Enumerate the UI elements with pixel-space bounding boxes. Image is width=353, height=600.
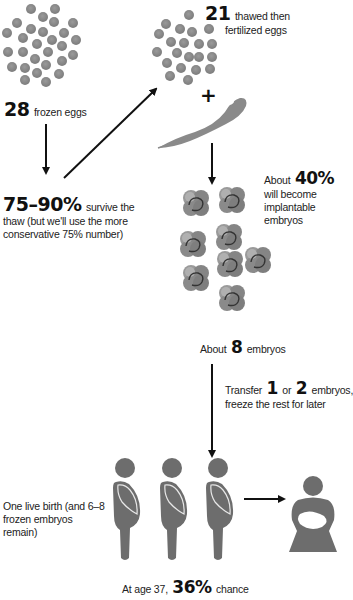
thawed-eggs-count: 21 — [205, 2, 230, 24]
embryo-count: 8 — [231, 337, 242, 357]
implantable-text-2: implantable — [264, 201, 339, 214]
mother-with-baby-icon — [289, 476, 337, 552]
embryo-text: embryos — [247, 343, 286, 355]
transfer-n2: 2 — [296, 378, 307, 398]
transfer-n1: 1 — [267, 378, 278, 398]
thawed-text-1: thawed then — [235, 10, 290, 22]
chance-rate: 36% — [172, 577, 211, 597]
frozen-eggs-cluster — [2, 4, 81, 87]
frozen-eggs-text: frozen eggs — [34, 106, 87, 118]
embryo-prefix: About — [200, 343, 226, 355]
outcome-text-2: frozen embryos remain) — [3, 513, 108, 539]
thawed-text-2: fertilized eggs — [205, 24, 335, 37]
outcome-label: One live birth (and 6–8 frozen embryos r… — [3, 500, 108, 539]
implantable-text-1: will become — [264, 188, 339, 201]
survive-text-3: conservative 75% number) — [3, 228, 153, 241]
transfer-prefix: Transfer — [225, 384, 262, 396]
survive-text-1: survive the — [86, 201, 135, 213]
thawed-eggs-label: 21 thawed then fertilized eggs — [205, 2, 335, 37]
pregnant-figures — [113, 458, 233, 560]
implantable-label: About 40% will become implantable embryo… — [264, 168, 339, 227]
frozen-eggs-label: 28 frozen eggs — [4, 98, 87, 120]
survive-rate: 75–90% — [3, 193, 81, 215]
transfer-suffix: embryos, — [312, 384, 353, 396]
embryo-count-label: About 8 embryos — [200, 337, 286, 357]
implantable-text-3: embryos — [264, 214, 339, 227]
survive-text-2: thaw (but we'll use the more — [3, 215, 153, 228]
implantable-rate: 40% — [295, 168, 334, 188]
plus-sign: + — [200, 83, 216, 107]
transfer-text-2: freeze the rest for later — [225, 398, 339, 411]
transfer-or: or — [282, 384, 291, 396]
frozen-eggs-count: 28 — [4, 98, 29, 120]
chance-label: At age 37, 36% chance — [122, 577, 249, 597]
survive-thaw-label: 75–90% survive the thaw (but we'll use t… — [3, 193, 153, 241]
chance-suffix: chance — [216, 583, 249, 595]
outcome-text-1: One live birth (and 6–8 — [3, 500, 108, 513]
embryos-cluster — [180, 187, 271, 311]
implantable-prefix: About — [264, 174, 290, 186]
chance-prefix: At age 37, — [122, 583, 168, 595]
transfer-label: Transfer 1 or 2 embryos, freeze the rest… — [225, 378, 339, 411]
